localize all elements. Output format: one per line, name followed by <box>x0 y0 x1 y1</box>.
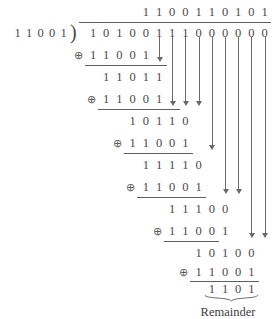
subtrahend-digit: 0 <box>219 266 232 278</box>
subtrahend-digit: 0 <box>192 225 205 237</box>
quotient-digit: 1 <box>258 6 271 18</box>
bring-down-arrowhead-icon <box>262 233 268 238</box>
partial-remainder-digit: 1 <box>192 203 205 215</box>
bring-down-line <box>172 37 173 101</box>
quotient-digit: 1 <box>192 6 205 18</box>
subtrahend-digit: 0 <box>205 225 218 237</box>
dividend-digit: 0 <box>100 27 113 39</box>
subtrahend-digit: 1 <box>100 49 113 61</box>
subtrahend-digit: 1 <box>153 93 166 105</box>
bring-down-arrowhead-icon <box>196 101 202 106</box>
subtrahend-digit: 1 <box>139 137 152 149</box>
subtrahend-digit: 0 <box>139 93 152 105</box>
subtrahend-digit: 0 <box>232 266 245 278</box>
xor-operator-icon: ⊕ <box>113 138 122 149</box>
subtrahend-digit: 1 <box>139 49 152 61</box>
remainder-underbrace-icon <box>204 295 259 305</box>
step-rule <box>164 241 220 242</box>
partial-remainder-digit: 0 <box>179 115 192 127</box>
subtrahend-digit: 0 <box>153 137 166 149</box>
quotient-overbar <box>79 22 271 23</box>
bring-down-arrowhead-icon <box>170 101 176 106</box>
subtrahend-digit: 1 <box>245 266 258 278</box>
partial-remainder-digit: 1 <box>139 71 152 83</box>
partial-remainder-digit: 0 <box>192 159 205 171</box>
partial-remainder-digit: 1 <box>113 71 126 83</box>
quotient-digit: 1 <box>232 6 245 18</box>
bring-down-arrowhead-icon <box>183 101 189 106</box>
xor-operator-icon: ⊕ <box>126 182 135 193</box>
subtrahend-digit: 1 <box>100 93 113 105</box>
xor-operator-icon: ⊕ <box>179 267 188 278</box>
partial-remainder-digit: 0 <box>139 115 152 127</box>
partial-remainder-digit: 1 <box>153 71 166 83</box>
partial-remainder-digit: 1 <box>166 115 179 127</box>
partial-remainder-digit: 1 <box>153 115 166 127</box>
partial-remainder-digit: 1 <box>126 115 139 127</box>
quotient-digit: 1 <box>139 6 152 18</box>
partial-remainder-digit: 1 <box>219 247 232 259</box>
bring-down-line <box>238 37 239 189</box>
subtrahend-digit: 0 <box>126 93 139 105</box>
subtrahend-digit: 1 <box>87 49 100 61</box>
quotient-digit: 0 <box>219 6 232 18</box>
partial-remainder-digit: 1 <box>153 159 166 171</box>
partial-remainder-digit: 1 <box>166 203 179 215</box>
step-rule <box>85 65 167 66</box>
dividend-digit: 1 <box>113 27 126 39</box>
quotient-digit: 1 <box>153 6 166 18</box>
xor-operator-icon: ⊕ <box>87 94 96 105</box>
subtrahend-digit: 1 <box>179 137 192 149</box>
partial-remainder-digit: 0 <box>205 203 218 215</box>
bring-down-arrowhead-icon <box>249 233 255 238</box>
subtrahend-digit: 1 <box>219 225 232 237</box>
partial-remainder-digit: 0 <box>126 71 139 83</box>
remainder-digit: 1 <box>245 283 258 295</box>
bring-down-line <box>251 37 252 233</box>
dividend-digit: 1 <box>87 27 100 39</box>
subtrahend-digit: 1 <box>179 225 192 237</box>
subtrahend-digit: 1 <box>113 93 126 105</box>
quotient-digit: 0 <box>245 6 258 18</box>
subtrahend-digit: 1 <box>153 181 166 193</box>
remainder-label: Remainder <box>201 306 256 319</box>
subtrahend-digit: 1 <box>205 266 218 278</box>
subtrahend-digit: 0 <box>126 49 139 61</box>
bring-down-arrowhead-icon <box>209 145 215 150</box>
partial-remainder-digit: 1 <box>139 159 152 171</box>
partial-remainder-digit: 1 <box>166 159 179 171</box>
bring-down-arrowhead-icon <box>223 189 229 194</box>
subtrahend-digit: 0 <box>179 181 192 193</box>
bring-down-line <box>212 37 213 145</box>
dividend-digit: 0 <box>139 27 152 39</box>
remainder-digit: 1 <box>219 283 232 295</box>
quotient-digit: 0 <box>179 6 192 18</box>
step-rule <box>124 153 193 154</box>
subtrahend-digit: 1 <box>192 266 205 278</box>
subtrahend-digit: 1 <box>192 181 205 193</box>
bring-down-line <box>265 37 266 233</box>
quotient-digit: 0 <box>166 6 179 18</box>
subtrahend-digit: 0 <box>113 49 126 61</box>
partial-remainder-digit: 0 <box>232 247 245 259</box>
partial-remainder-digit: 0 <box>245 247 258 259</box>
bring-down-arrowhead-icon <box>157 57 163 62</box>
subtrahend-digit: 1 <box>139 181 152 193</box>
step-rule <box>98 109 180 110</box>
bring-down-arrowhead-icon <box>236 189 242 194</box>
xor-operator-icon: ⊕ <box>74 50 83 61</box>
dividend-digit: 0 <box>126 27 139 39</box>
bring-down-line <box>199 37 200 101</box>
bring-down-line <box>185 37 186 101</box>
partial-remainder-digit: 1 <box>100 71 113 83</box>
partial-remainder-digit: 0 <box>205 247 218 259</box>
bring-down-line <box>159 37 160 57</box>
quotient-digit: 1 <box>205 6 218 18</box>
partial-remainder-digit: 1 <box>192 247 205 259</box>
step-rule <box>137 197 206 198</box>
remainder-digit: 0 <box>232 283 245 295</box>
subtrahend-digit: 0 <box>166 137 179 149</box>
remainder-digit: 1 <box>205 283 218 295</box>
subtrahend-digit: 0 <box>166 181 179 193</box>
